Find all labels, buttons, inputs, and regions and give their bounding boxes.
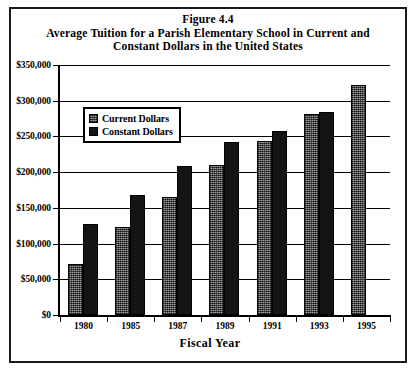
y-axis-tick [53, 101, 60, 102]
bar-group: 1989 [201, 65, 248, 315]
y-axis-label: $100,000 [16, 239, 51, 249]
legend-swatch-constant-dollars [89, 127, 98, 136]
x-axis-tick [201, 315, 202, 322]
bar-current-dollars [257, 141, 272, 315]
legend-swatch-current-dollars [89, 114, 98, 123]
x-axis-tick [154, 315, 155, 322]
bar-constant-dollars [83, 224, 98, 315]
bar-constant-dollars [272, 131, 287, 315]
legend-item-current-dollars: Current Dollars [89, 112, 173, 125]
y-axis-label: $250,000 [16, 131, 51, 141]
x-axis-tick [249, 315, 250, 322]
legend-label-current-dollars: Current Dollars [102, 113, 169, 124]
x-axis-label: 1987 [154, 321, 201, 331]
plot-area: $0$50,000$100,000$150,000$200,000$250,00… [58, 65, 390, 317]
bar-group: 1991 [249, 65, 296, 315]
y-axis-label: $150,000 [16, 203, 51, 213]
bar-group: 1987 [154, 65, 201, 315]
bar-constant-dollars [177, 166, 192, 315]
y-axis-tick [53, 315, 60, 316]
bar-current-dollars [162, 197, 177, 315]
bar-current-dollars [304, 114, 319, 315]
bar-constant-dollars [130, 195, 145, 315]
bar-group: 1993 [296, 65, 343, 315]
bar-constant-dollars [224, 142, 239, 315]
bar-group: 1995 [343, 65, 390, 315]
bar-constant-dollars [319, 112, 334, 315]
y-axis-label: $300,000 [16, 96, 51, 106]
bar-group: 1980 [60, 65, 107, 315]
x-axis-label: 1980 [60, 321, 107, 331]
legend-item-constant-dollars: Constant Dollars [89, 125, 173, 138]
x-axis-tick [107, 315, 108, 322]
x-axis-title: Fiscal Year [11, 336, 409, 351]
y-axis-tick [53, 244, 60, 245]
y-axis-tick [53, 172, 60, 173]
bar-group: 1985 [107, 65, 154, 315]
y-axis-tick [53, 65, 60, 66]
bar-current-dollars [351, 85, 366, 315]
y-axis-label: $50,000 [21, 274, 51, 284]
y-axis-label: $350,000 [16, 60, 51, 70]
y-axis-tick [53, 279, 60, 280]
y-axis-label: $0 [42, 310, 51, 320]
x-axis-tick [296, 315, 297, 322]
y-axis-tick [53, 208, 60, 209]
x-axis-label: 1989 [201, 321, 248, 331]
legend-label-constant-dollars: Constant Dollars [102, 126, 173, 137]
x-axis-label: 1991 [249, 321, 296, 331]
chart-plot: $0$50,000$100,000$150,000$200,000$250,00… [11, 9, 409, 365]
chart-legend: Current Dollars Constant Dollars [83, 107, 181, 143]
x-axis-label: 1995 [343, 321, 390, 331]
x-axis-label: 1985 [107, 321, 154, 331]
bar-current-dollars [68, 264, 83, 315]
x-axis-tick [343, 315, 344, 322]
y-axis-label: $200,000 [16, 167, 51, 177]
x-axis-label: 1993 [296, 321, 343, 331]
bar-current-dollars [209, 165, 224, 315]
x-axis-tick [60, 315, 61, 322]
bar-current-dollars [115, 227, 130, 315]
y-axis-tick [53, 136, 60, 137]
figure-frame: Figure 4.4 Average Tuition for a Parish … [9, 7, 407, 363]
x-axis-tick [390, 315, 391, 322]
